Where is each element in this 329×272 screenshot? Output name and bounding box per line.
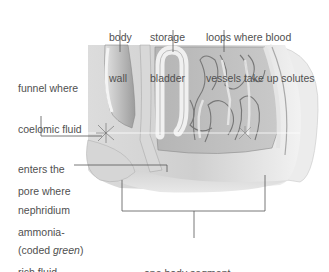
label-pore: pore where ammonia- rich fluid leaves th… [18, 158, 71, 272]
label-segment: one body segment of an earthworm [144, 240, 230, 272]
label-body-wall: body wall [109, 4, 132, 99]
label-loops: loops where blood vessels take up solute… [206, 4, 315, 99]
label-storage-bladder: storage bladder [150, 4, 185, 99]
